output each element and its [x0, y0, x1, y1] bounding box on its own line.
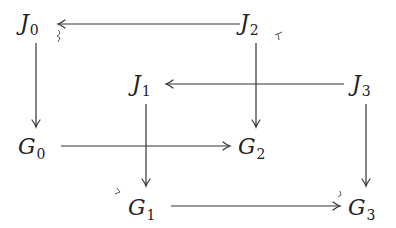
- svg-text:J2: J2: [236, 10, 259, 38]
- svg-text:G0: G0: [18, 134, 46, 162]
- node-g1: G1: [128, 195, 156, 223]
- svg-text:J1: J1: [128, 71, 151, 99]
- tick-marks: [57, 30, 341, 197]
- node-g0: G0: [18, 134, 46, 162]
- node-j1: J1: [128, 71, 151, 99]
- svg-text:G3: G3: [348, 195, 376, 223]
- svg-text:G1: G1: [128, 195, 156, 223]
- commutative-diagram: J0 J2 J1 J3 G0 G2 G1 G3: [0, 0, 396, 228]
- node-j2: J2: [236, 10, 259, 38]
- node-g3: G3: [348, 195, 376, 223]
- edges: [36, 24, 366, 206]
- node-j3: J3: [348, 71, 371, 99]
- node-j0: J0: [16, 10, 39, 38]
- svg-text:G2: G2: [238, 134, 266, 162]
- svg-text:J3: J3: [348, 71, 371, 99]
- node-g2: G2: [238, 134, 266, 162]
- svg-text:J0: J0: [16, 10, 39, 38]
